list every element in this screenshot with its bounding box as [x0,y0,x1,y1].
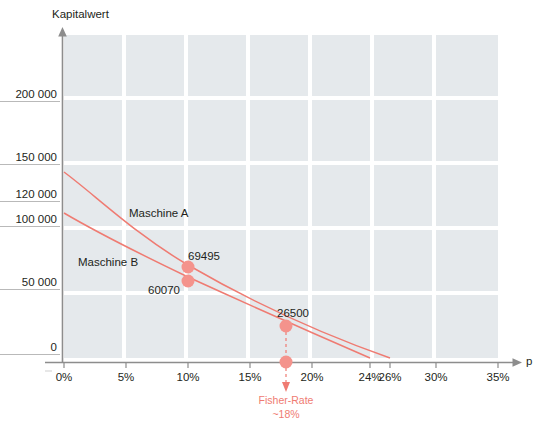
annotation-fisher-rate: Fisher-Rate ~18% [236,393,336,421]
x-tick-20: 20% [289,371,335,383]
annotation-69495: 69495 [188,250,220,262]
y-tick-0-rule [0,354,60,355]
y-tick-150000-rule [0,164,60,165]
y-tick-200000-label: 200 000 [0,88,60,101]
y-tick-120000-rule [0,201,60,202]
series-label-maschine-b: Maschine B [78,256,138,268]
y-tick-0: 0 [0,341,60,355]
x-axis-title: p [526,355,532,367]
x-tick-0: 0% [44,371,84,383]
y-tick-100000-label: 100 000 [0,213,60,226]
marker-point-b-10 [182,275,195,288]
marker-fisher-axis [280,356,293,369]
y-tick-150000-label: 150 000 [0,151,60,164]
x-tick-marks [45,362,498,371]
y-tick-150000: 150 000 [0,151,60,165]
chart-canvas: Kapitalwert p 200 000 150 000 120 000 10… [0,0,545,432]
fisher-rate-title: Fisher-Rate [236,393,336,407]
x-tick-26: 26% [367,371,413,383]
y-tick-0-label: 0 [0,341,60,354]
annotation-60070: 60070 [148,284,180,296]
y-tick-120000: 120 000 [0,188,60,202]
series-label-maschine-a: Maschine A [129,207,188,219]
y-tick-200000: 200 000 [0,88,60,102]
y-tick-200000-rule [0,101,60,102]
y-tick-120000-label: 120 000 [0,188,60,201]
x-tick-30: 30% [413,371,459,383]
fisher-rate-value: ~18% [236,407,336,421]
x-tick-10: 10% [165,371,211,383]
x-tick-15: 15% [227,371,273,383]
x-tick-35: 35% [475,371,521,383]
y-tick-50000-rule [0,289,60,290]
marker-intersection [280,320,293,333]
marker-point-a-10 [182,261,195,274]
annotation-26500: 26500 [277,307,309,319]
y-tick-100000-rule [0,226,60,227]
chart-svg [0,0,545,432]
y-tick-100000: 100 000 [0,213,60,227]
y-tick-50000-label: 50 000 [0,276,60,289]
x-tick-5: 5% [106,371,146,383]
y-tick-50000: 50 000 [0,276,60,290]
y-axis-title: Kapitalwert [52,8,109,20]
